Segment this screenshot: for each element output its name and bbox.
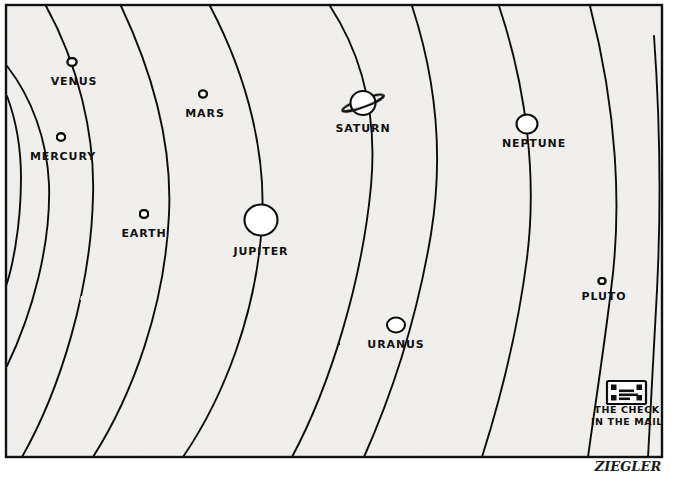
planet-label-uranus: URANUS — [367, 338, 424, 351]
check-envelope-icon — [607, 381, 646, 404]
planet-label-earth: EARTH — [121, 227, 166, 240]
planet-label-mars: MARS — [185, 107, 224, 120]
small-circle-icon — [199, 90, 207, 97]
check-writing-line-icon-3 — [619, 398, 630, 401]
small-circle-icon — [67, 58, 76, 66]
caption-line-1: THE CHECK — [594, 404, 659, 415]
planet-label-pluto: PLUTO — [582, 290, 627, 303]
planet-label-venus: VENUS — [51, 75, 98, 88]
check-corner-mark-icon-3 — [611, 395, 617, 401]
large-circle-icon — [245, 205, 278, 236]
medium-circle-icon — [517, 115, 538, 134]
cartoon-panel: MERCURYVENUSEARTHMARSJUPITERSATURNURANUS… — [0, 0, 680, 481]
planet-label-saturn: SATURN — [335, 122, 390, 135]
artist-signature: ZIEGLER — [594, 459, 662, 474]
panel-interior — [6, 5, 662, 457]
tiny-circle-icon — [598, 278, 605, 285]
check-writing-line-icon-1 — [619, 390, 634, 393]
check-corner-mark-icon-1 — [611, 385, 617, 391]
small-ellipse-icon — [387, 318, 405, 333]
caption-line-2: IN THE MAIL — [591, 416, 663, 427]
small-circle-icon — [140, 210, 149, 218]
small-circle-icon — [57, 133, 65, 141]
planet-label-neptune: NEPTUNE — [502, 137, 566, 150]
check-writing-line-icon-2 — [619, 394, 638, 397]
planet-label-jupiter: JUPITER — [233, 245, 289, 258]
planet-label-mercury: MERCURY — [30, 150, 96, 163]
check-corner-mark-icon-2 — [637, 385, 643, 391]
cartoon-drawing: MERCURYVENUSEARTHMARSJUPITERSATURNURANUS… — [0, 0, 680, 481]
panel-paper-texture — [6, 5, 662, 457]
